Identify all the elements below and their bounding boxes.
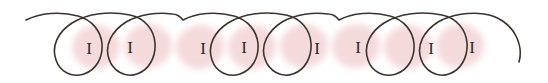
letter-i-glyph: I bbox=[428, 39, 434, 58]
letter-i-glyph: I bbox=[314, 39, 320, 58]
letter-glyph-layer: IIIIIIII bbox=[0, 0, 548, 83]
letter-i-glyphs: IIIIIIII bbox=[86, 38, 475, 58]
letter-i-glyph: I bbox=[355, 38, 361, 57]
letter-i-glyph: I bbox=[200, 39, 206, 58]
handwriting-figure: IIIIIIII bbox=[0, 0, 548, 83]
letter-i-glyph: I bbox=[86, 39, 92, 58]
letter-i-glyph: I bbox=[241, 38, 247, 57]
letter-i-glyph: I bbox=[469, 38, 475, 57]
letter-i-glyph: I bbox=[127, 38, 133, 57]
